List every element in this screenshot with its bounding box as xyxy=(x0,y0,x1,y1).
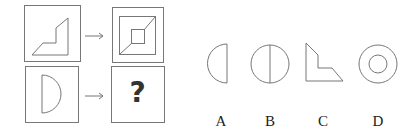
option-c-shape[interactable] xyxy=(306,43,343,81)
row1-output-inner-square xyxy=(132,30,145,44)
option-d-outer-circle[interactable] xyxy=(359,45,397,83)
question-mark: ? xyxy=(111,76,164,109)
row2-input-box xyxy=(26,67,79,123)
option-c-label[interactable]: C xyxy=(313,113,333,130)
row1-input-shape xyxy=(32,18,68,55)
option-b-label[interactable]: B xyxy=(260,113,280,130)
row2-arrow-icon xyxy=(85,93,103,99)
option-a-shape[interactable] xyxy=(208,44,227,83)
option-a-label[interactable]: A xyxy=(211,113,231,130)
row2-input-shape xyxy=(42,75,61,113)
option-d-label[interactable]: D xyxy=(368,113,388,130)
row1-arrow-icon xyxy=(85,33,103,39)
row1-output-diagonal-lower xyxy=(120,43,132,54)
row1-output-diagonal-upper xyxy=(144,17,155,30)
puzzle-canvas xyxy=(0,0,416,137)
option-d-inner-circle xyxy=(369,55,387,73)
row1-input-box xyxy=(25,6,81,62)
